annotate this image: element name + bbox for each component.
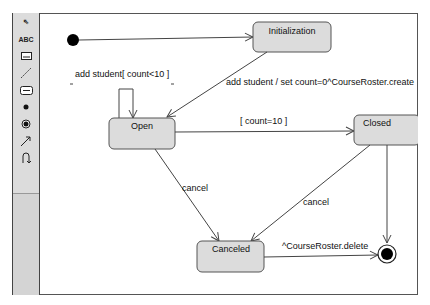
state-tool-icon[interactable]	[16, 83, 36, 97]
transition-open-to-closed[interactable]	[175, 131, 354, 132]
initial-state[interactable]	[67, 34, 79, 46]
label-open-to-closed: [ count=10 ]	[240, 116, 287, 126]
transition-initial-to-initialization[interactable]	[79, 37, 253, 40]
tool-palette-tools: ⇖ ABC	[13, 13, 39, 194]
self-transition-tool-icon[interactable]	[16, 151, 36, 165]
final-state[interactable]	[378, 245, 396, 263]
select-arrow-icon[interactable]: ⇖	[16, 15, 36, 29]
initial-state-tool-icon[interactable]	[16, 100, 36, 114]
state-initialization[interactable]: Initialization	[253, 22, 331, 52]
state-canceled-label: Canceled	[212, 244, 250, 254]
label-open-to-canceled: cancel	[182, 183, 208, 193]
transition-tool-icon[interactable]	[16, 134, 36, 148]
state-canceled[interactable]: Canceled	[197, 241, 264, 272]
label-init-to-open: add student / set count=0^CourseRoster.c…	[226, 77, 414, 87]
diagram-canvas[interactable]: Initialization add student / set count=0…	[41, 13, 418, 295]
state-initialization-label: Initialization	[268, 26, 315, 36]
tool-palette: ⇖ ABC	[12, 13, 40, 295]
transition-canceled-to-final[interactable]	[264, 255, 378, 257]
label-self-loop: add student[ count<10 ]	[75, 69, 169, 79]
transition-open-self-loop[interactable]	[119, 89, 133, 118]
state-open[interactable]: Open	[109, 118, 175, 149]
state-open-label: Open	[131, 121, 153, 131]
text-tool-icon[interactable]: ABC	[16, 32, 36, 46]
label-canceled-to-final: ^CourseRoster.delete	[282, 241, 368, 251]
transition-open-to-canceled[interactable]	[155, 149, 219, 241]
transition-closed-to-canceled[interactable]	[251, 145, 370, 241]
label-closed-to-canceled: cancel	[303, 197, 329, 207]
state-closed[interactable]: Closed	[354, 115, 418, 145]
note-tool-icon[interactable]	[16, 49, 36, 63]
state-closed-label: Closed	[363, 118, 391, 128]
final-state-tool-icon[interactable]	[16, 117, 36, 131]
anchor-line-tool-icon[interactable]	[16, 66, 36, 80]
